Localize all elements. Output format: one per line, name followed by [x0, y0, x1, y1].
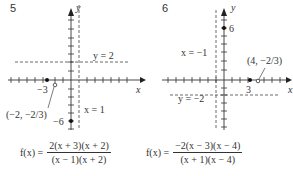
formula-lhs-5: f(x) = [20, 147, 43, 158]
hole-point-6 [256, 79, 260, 83]
numerator-6: −2(x − 3)(x − 4) [173, 140, 242, 153]
y-intercept-label-6: 6 [229, 23, 234, 34]
y-intercept-label-5: −6 [53, 116, 64, 127]
problem-number-5: 5 [10, 2, 16, 14]
hole-point-5 [53, 83, 57, 87]
x-axis-arrow-5 [140, 77, 146, 83]
x-axis-label-5: x [135, 84, 141, 95]
x-intercept-point-5 [45, 78, 49, 82]
y-axis-label-5: y [75, 2, 81, 13]
fraction-6: −2(x − 3)(x − 4) (x + 1)(x − 4) [173, 140, 242, 165]
formula-5: f(x) = 2(x + 3)(x + 2) (x − 1)(x + 2) [20, 140, 111, 165]
y-axis-arrow-6 [221, 8, 227, 16]
y-intercept-point-6 [222, 26, 226, 30]
formula-lhs-6: f(x) = [146, 147, 169, 158]
vertical-asymptote-label-5: x = 1 [84, 104, 105, 115]
x-intercept-point-6 [248, 78, 252, 82]
fraction-5: 2(x + 3)(x + 2) (x − 1)(x + 2) [47, 140, 111, 165]
denominator-6: (x + 1)(x − 4) [178, 153, 237, 165]
x-axis-label-6: x [287, 84, 293, 95]
y-intercept-point-5 [69, 119, 73, 123]
hole-leader-5 [48, 87, 54, 108]
formula-6: f(x) = −2(x − 3)(x − 4) (x + 1)(x − 4) [146, 140, 242, 165]
denominator-5: (x − 1)(x + 2) [50, 153, 109, 165]
vertical-asymptote-label-6: x = −1 [181, 47, 207, 58]
hole-label-5: (−2, −2/3) [6, 109, 47, 121]
horizontal-asymptote-label-6: y = −2 [178, 93, 204, 104]
problem-number-6: 6 [162, 2, 168, 14]
graph-6: 6 y x y = −2 x = −1 [162, 2, 293, 130]
numerator-5: 2(x + 3)(x + 2) [47, 140, 111, 153]
x-intercept-label-6: 3 [246, 84, 251, 95]
x-intercept-label-5: −3 [37, 84, 48, 95]
y-axis-arrow-5 [68, 8, 74, 16]
y-axis-label-6: y [230, 2, 236, 13]
hole-label-6: (4, −2/3) [247, 55, 282, 67]
x-axis-arrow-6 [286, 77, 292, 83]
graph-5: 5 y x y = 2 x = 1 [6, 2, 146, 130]
horizontal-asymptote-label-5: y = 2 [93, 50, 114, 61]
